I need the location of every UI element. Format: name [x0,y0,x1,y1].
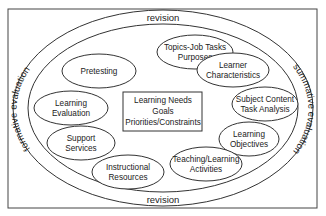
svg-text:Learner: Learner [219,61,247,70]
node-learner: Learner Characteristics [197,53,269,87]
svg-text:Pretesting: Pretesting [81,67,118,76]
node-resources: Instructional Resources [92,155,164,189]
center-line-1: Learning Needs [134,96,192,105]
center-line-2: Goals [152,107,173,116]
svg-text:Instructional: Instructional [106,163,150,172]
svg-text:Topics-Job Tasks: Topics-Job Tasks [164,43,226,52]
node-evaluation: Learning Evaluation [34,91,108,125]
svg-text:Evaluation: Evaluation [52,109,91,118]
svg-text:Characteristics: Characteristics [206,71,260,80]
node-support: Support Services [47,126,115,160]
center-line-3: Priorities/Constraints [125,118,201,127]
svg-text:Task Analysis: Task Analysis [240,105,289,114]
node-subject: Subject Content Task Analysis [232,87,298,121]
svg-text:Resources: Resources [108,173,147,182]
svg-text:Subject Content: Subject Content [236,95,295,104]
svg-text:Teaching/Learning: Teaching/Learning [173,155,240,164]
svg-text:Services: Services [65,144,96,153]
node-pretesting: Pretesting [62,54,136,88]
instructional-design-diagram: revision revision formative evaluation s… [0,0,326,216]
node-teaching: Teaching/Learning Activities [170,147,242,181]
revision-top-label: revision [147,12,180,23]
revision-bottom-label: revision [147,194,180,205]
svg-text:Objectives: Objectives [230,140,268,149]
svg-text:Activities: Activities [190,165,222,174]
svg-text:Support: Support [67,134,96,143]
svg-text:Learning: Learning [55,99,87,108]
svg-text:Learning: Learning [233,130,265,139]
